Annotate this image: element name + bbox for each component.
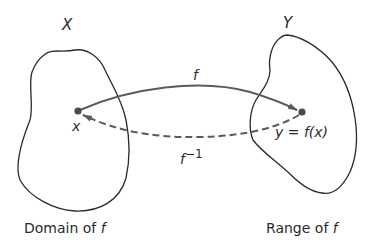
inverse-mapping-arrow: [83, 115, 299, 137]
inverse-arrow-label-superscript: −1: [185, 147, 203, 161]
range-caption-var: f: [333, 220, 340, 236]
domain-set-name: X: [61, 16, 73, 34]
domain-caption: Domain of f: [24, 220, 108, 236]
function-inverse-diagram: X Y f f−1 x y = f(x) Domain of f Range o…: [0, 0, 377, 244]
point-x-label: x: [71, 118, 81, 134]
point-y-dot: [298, 108, 305, 115]
point-y-label: y = f(x): [274, 124, 328, 140]
forward-arrow-label: f: [193, 67, 200, 83]
range-caption-text: Range of: [266, 220, 329, 236]
range-set-name: Y: [283, 14, 294, 32]
range-caption: Range of f: [266, 220, 340, 236]
domain-caption-text: Domain of: [24, 220, 97, 236]
inverse-arrow-label: f−1: [180, 147, 203, 167]
point-x-dot: [74, 107, 81, 114]
forward-mapping-arrow: [80, 86, 297, 110]
domain-caption-var: f: [101, 220, 108, 236]
